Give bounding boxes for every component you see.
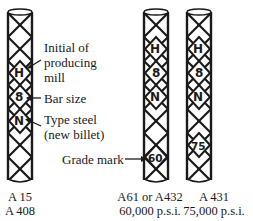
callout-type-line2: (new billet)	[44, 128, 104, 141]
callout-bar-size: Bar size	[44, 92, 86, 105]
callout-mill-line2: producing	[44, 56, 97, 69]
mark-grade-60: 60	[148, 152, 163, 165]
mark-N: N	[14, 115, 24, 128]
mark-N: N	[193, 91, 203, 104]
mark-N: N	[150, 91, 160, 104]
caption-bar1-line1: A 15	[0, 190, 40, 204]
mark-H: H	[193, 43, 203, 56]
callout-type-line1: Type steel	[44, 113, 97, 126]
callout-grade-mark: Grade mark	[62, 153, 124, 166]
caption-bar1-line2: A 408	[0, 204, 40, 218]
caption-bar3-line1: A 431	[175, 190, 253, 204]
caption-bar3-line2: 75,000 p.s.i.	[175, 204, 253, 218]
mark-8: 8	[15, 91, 23, 104]
mark-8: 8	[195, 67, 203, 80]
mark-grade-75: 75	[191, 140, 206, 153]
callout-mill-line3: mill	[44, 71, 65, 84]
callout-mill-line1: Initial of	[44, 41, 89, 54]
rebar-diagram	[0, 0, 253, 221]
mark-H: H	[14, 67, 24, 80]
mark-8: 8	[152, 67, 160, 80]
mark-H: H	[150, 43, 160, 56]
